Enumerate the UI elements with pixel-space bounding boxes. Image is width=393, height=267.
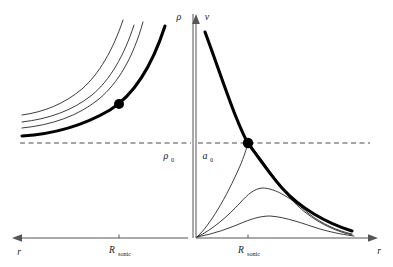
density-axis-label: ρ <box>176 11 182 22</box>
velocity-panel-radius-label: r <box>377 246 381 256</box>
velocity-sonic-point-marker <box>243 138 253 148</box>
velocity-reference-main: a <box>203 150 208 161</box>
density-panel-x-axis-arrow <box>12 234 22 242</box>
density-reference-label: ρ 0 <box>163 150 175 163</box>
density-panel-radius-label: r <box>17 247 21 257</box>
velocity-panel <box>192 14 378 242</box>
velocity-axis-label: v <box>205 11 210 22</box>
density-family-curve-3 <box>22 20 123 115</box>
transonic-flow-figure: ρ v r r R sonic R sonic ρ 0 a 0 <box>0 0 393 267</box>
velocity-sonic-radius-sub: sonic <box>247 250 260 257</box>
density-family-curve-2 <box>22 22 143 128</box>
velocity-panel-x-axis-arrow <box>368 234 378 242</box>
velocity-reference-sub: 0 <box>210 156 213 163</box>
density-sonic-radius-sub: sonic <box>118 250 131 257</box>
velocity-breeze-curve-2 <box>197 188 352 237</box>
figure-canvas: ρ v r r R sonic R sonic ρ 0 a 0 <box>0 0 393 267</box>
velocity-sonic-radius-main: R <box>237 245 244 255</box>
density-critical-curve <box>22 26 165 136</box>
density-panel-sonic-radius-label: R sonic <box>108 245 131 257</box>
density-sonic-point-marker <box>114 99 124 109</box>
velocity-breeze-curve-1-descending <box>248 144 352 235</box>
density-panel <box>12 14 193 242</box>
density-reference-sub: 0 <box>171 156 174 163</box>
velocity-panel-sonic-radius-label: R sonic <box>237 245 260 257</box>
density-sonic-radius-main: R <box>108 245 115 255</box>
density-reference-main: ρ <box>163 150 169 161</box>
velocity-reference-label: a 0 <box>203 150 214 163</box>
velocity-critical-curve <box>205 32 352 231</box>
